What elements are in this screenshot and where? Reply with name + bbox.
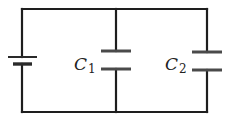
circuit-diagram: C1 C2 [0,0,241,127]
c1-label: C1 [74,54,96,76]
capacitor-c1: C1 [74,51,131,76]
c2-label: C2 [165,54,187,76]
capacitor-c2: C2 [165,52,222,76]
wires [22,9,207,112]
